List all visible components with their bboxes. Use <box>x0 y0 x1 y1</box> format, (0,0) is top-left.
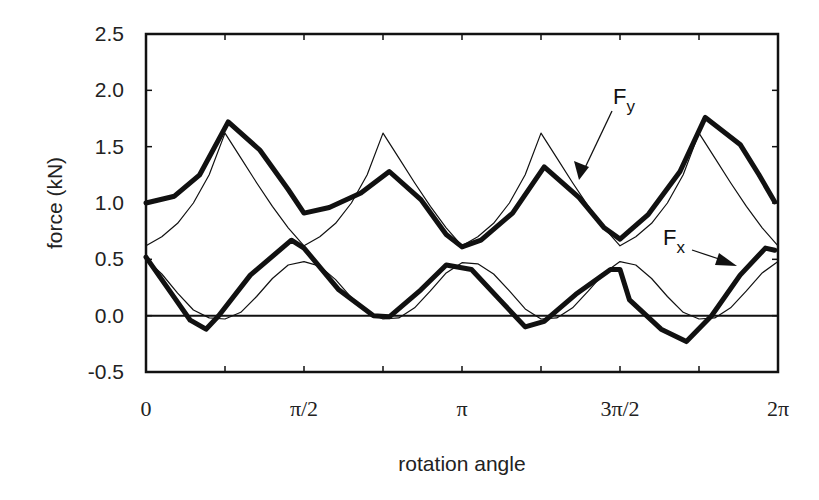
x-axis-title: rotation angle <box>398 452 525 475</box>
fx-arrow-head <box>715 253 737 266</box>
y-tick-labels: 2.5 2.0 1.5 1.0 0.5 0.0 -0.5 <box>88 22 124 383</box>
series-line-fy-measured <box>146 117 775 247</box>
x-tick-label: π <box>456 396 467 421</box>
fy-arrow-line <box>583 111 612 172</box>
plot-frame <box>146 34 778 372</box>
x-tick-label: 2π <box>767 396 789 421</box>
y-tick-label: 2.5 <box>95 22 124 45</box>
force-chart: 2.5 2.0 1.5 1.0 0.5 0.0 -0.5 0 π/2 π 3π/… <box>0 0 819 500</box>
x-tick-label: π/2 <box>290 396 318 421</box>
x-tick-labels: 0 π/2 π 3π/2 2π <box>141 396 790 421</box>
x-tick-label: 3π/2 <box>600 396 639 421</box>
fy-annotation: Fy <box>574 84 635 180</box>
curves-layer <box>146 117 778 341</box>
y-axis-title: force (kN) <box>43 157 66 249</box>
x-tick-label: 0 <box>141 396 152 421</box>
fy-label: Fy <box>613 84 635 116</box>
ticks-layer <box>146 34 778 372</box>
series-line-fy-model <box>146 133 778 246</box>
fx-annotation: Fx <box>663 225 737 266</box>
y-tick-label: 0.5 <box>95 247 124 270</box>
y-tick-label: 2.0 <box>95 78 124 101</box>
y-tick-label: 1.5 <box>95 135 124 158</box>
y-tick-label: -0.5 <box>88 360 124 383</box>
fx-label: Fx <box>663 225 685 257</box>
y-tick-label: 1.0 <box>95 191 124 214</box>
y-tick-label: 0.0 <box>95 304 124 327</box>
